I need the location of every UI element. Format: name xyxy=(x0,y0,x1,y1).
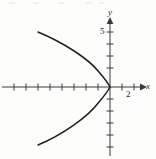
parabola-figure: y x 5 2 xyxy=(0,0,156,159)
x-axis-tick-label-2: 2 xyxy=(126,90,131,99)
x-axis-label: x xyxy=(146,82,150,91)
y-axis-tick-label-5: 5 xyxy=(100,27,105,36)
plot-canvas xyxy=(0,0,156,159)
y-axis-arrowhead xyxy=(107,17,114,24)
y-axis-label: y xyxy=(108,8,112,17)
